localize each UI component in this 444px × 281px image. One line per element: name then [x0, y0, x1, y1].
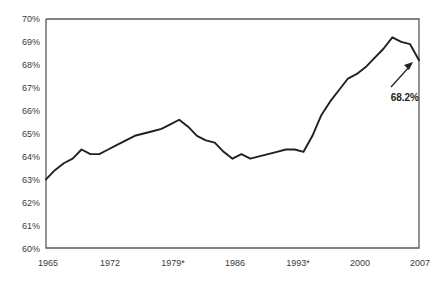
x-tick-label: 2000	[350, 258, 370, 268]
y-tick-label: 65%	[22, 129, 40, 139]
x-tick-label: 1979*	[161, 258, 185, 268]
x-tick-label: 2007	[410, 258, 430, 268]
x-tick-label: 1993*	[286, 258, 310, 268]
y-tick-label: 63%	[22, 175, 40, 185]
y-axis-tick-labels: 70% 69% 68% 67% 66% 65% 64% 63% 62% 61% …	[22, 14, 40, 254]
x-tick-label: 1972	[100, 258, 120, 268]
x-tick-label: 1986	[225, 258, 245, 268]
y-tick-label: 64%	[22, 152, 40, 162]
y-tick-label: 70%	[22, 14, 40, 24]
y-tick-label: 62%	[22, 198, 40, 208]
data-series-line	[46, 37, 419, 179]
y-tick-label: 69%	[22, 37, 40, 47]
line-chart: 70% 69% 68% 67% 66% 65% 64% 63% 62% 61% …	[0, 0, 444, 281]
y-tick-label: 60%	[22, 244, 40, 254]
end-value-callout-label: 68.2%	[391, 92, 419, 103]
end-value-callout-arrow	[391, 62, 413, 87]
y-tick-label: 61%	[22, 221, 40, 231]
y-tick-label: 66%	[22, 106, 40, 116]
x-axis-tick-labels: 1965 1972 1979* 1986 1993* 2000 2007	[38, 258, 430, 268]
y-tick-label: 68%	[22, 60, 40, 70]
plot-area-border	[46, 19, 419, 248]
y-tick-label: 67%	[22, 83, 40, 93]
chart-container: 70% 69% 68% 67% 66% 65% 64% 63% 62% 61% …	[0, 0, 444, 281]
x-tick-label: 1965	[38, 258, 58, 268]
